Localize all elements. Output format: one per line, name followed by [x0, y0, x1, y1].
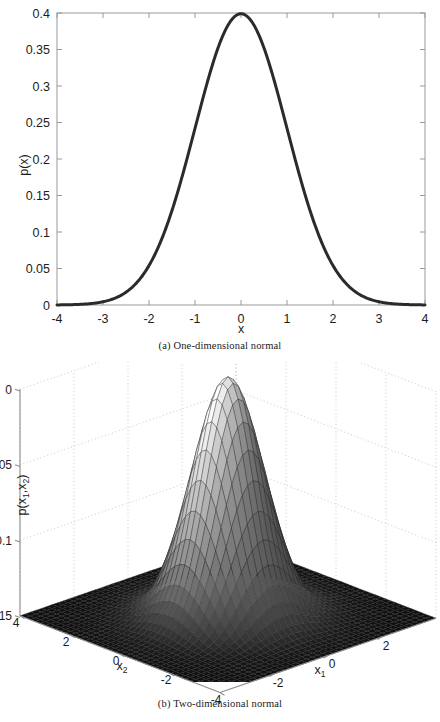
x2-axis-title-3d: x2 [117, 659, 128, 675]
y-axis-ticks-a [57, 13, 425, 305]
x-tick-label: 1 [284, 312, 291, 326]
axes-frame-a [57, 13, 425, 305]
x2-tick-label: -2 [161, 673, 172, 687]
chart-one-dimensional-normal: 00.050.10.150.20.250.30.350.4 -4-3-2-101… [0, 0, 440, 362]
y-tick-label: 0.35 [26, 43, 50, 57]
y-tick-label: 0.15 [26, 189, 50, 203]
y-tick-label: 0.3 [33, 80, 50, 94]
x-axis-ticks-a [57, 13, 425, 305]
x-tick-label: 3 [376, 312, 383, 326]
y-axis-title-a: p(x) [17, 154, 31, 176]
x2-tick-label: 4 [13, 616, 20, 630]
z-tick-label: 0.05 [0, 458, 12, 472]
panel-one-dimensional-normal: 00.050.10.150.20.250.30.350.4 -4-3-2-101… [0, 0, 440, 362]
z-title-part3: ) [15, 475, 29, 479]
x1-tick-label: 2 [383, 639, 390, 653]
panel-two-dimensional-normal: 00.050.10.15 -202 420-2-4 p(x1,x2) x1 x2… [0, 362, 440, 722]
svg-text:p(x1,x2): p(x1,x2) [15, 475, 31, 516]
caption-panel-a: (a) One-dimensional normal [0, 340, 440, 351]
x-tick-label: -3 [97, 312, 108, 326]
surface-mesh [20, 377, 436, 693]
x2-title-sub: 2 [123, 665, 128, 675]
x-tick-label: -1 [189, 312, 200, 326]
caption-panel-b: (b) Two-dimensional normal [0, 698, 440, 709]
z-tick-label: 0.1 [0, 534, 12, 548]
z-tick-labels-3d: 00.050.10.15 [0, 383, 12, 624]
x-axis-title-a: x [238, 322, 245, 336]
x-tick-label: -2 [143, 312, 154, 326]
y-tick-label: 0.25 [26, 116, 50, 130]
y-tick-label: 0.2 [33, 153, 50, 167]
x1-tick-label: -2 [273, 676, 284, 690]
x1-title-sub: 1 [321, 669, 326, 679]
y-tick-label: 0 [43, 299, 50, 313]
x2-tick-label: 2 [63, 635, 70, 649]
y-tick-label: 0.4 [33, 7, 50, 21]
y-tick-label: 0.1 [33, 226, 50, 240]
x1-axis-title-3d: x1 [315, 663, 326, 679]
normal-curve [57, 14, 425, 305]
x-tick-label: 4 [422, 312, 429, 326]
y-tick-label: 0.05 [26, 262, 50, 276]
z-title-part1: p(x [15, 497, 29, 515]
chart-two-dimensional-normal: 00.050.10.15 -202 420-2-4 p(x1,x2) x1 x2 [0, 362, 440, 722]
x1-tick-label: 0 [329, 657, 336, 671]
x-tick-label: 2 [330, 312, 337, 326]
z-tick-label: 0.15 [0, 609, 12, 623]
x-tick-label: -4 [51, 312, 62, 326]
z-tick-label: 0 [5, 383, 12, 397]
z-axis-title-3d: p(x1,x2) [15, 475, 31, 516]
